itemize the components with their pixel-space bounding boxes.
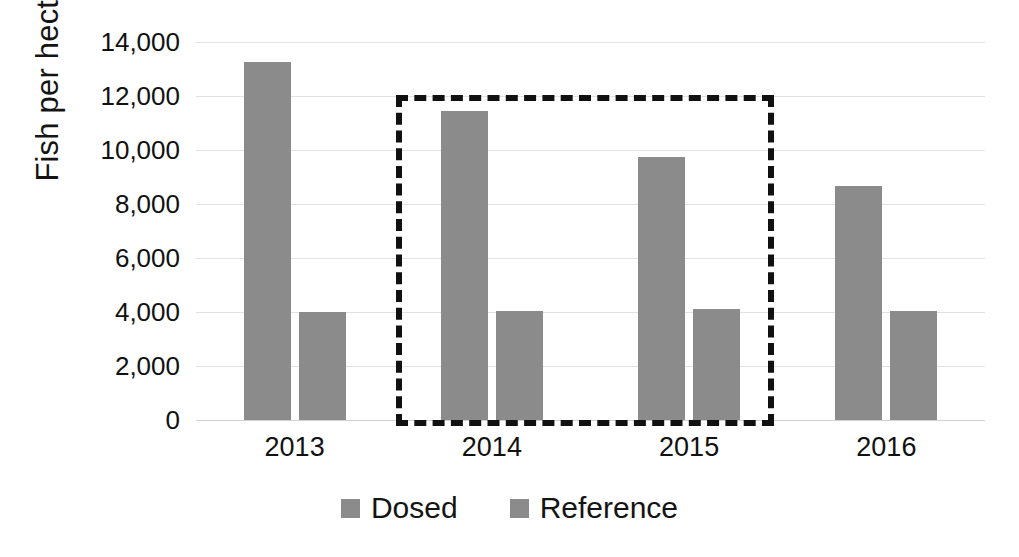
bar-reference-2014[interactable]	[496, 311, 543, 420]
y-axis-tick-label: 6,000	[60, 243, 180, 274]
y-axis-tick-label: 12,000	[60, 81, 180, 112]
chart-legend: DosedReference	[0, 493, 1019, 523]
bar-dosed-2013[interactable]	[244, 62, 291, 420]
gridline	[196, 42, 985, 43]
legend-item-reference[interactable]: Reference	[510, 493, 678, 523]
bar-reference-2016[interactable]	[890, 311, 937, 420]
plot-area	[196, 42, 985, 420]
bar-chart: Fish per hectare 02,0004,0006,0008,00010…	[0, 0, 1019, 557]
y-axis-tick-label: 4,000	[60, 297, 180, 328]
bar-reference-2013[interactable]	[299, 312, 346, 420]
y-axis-tick-label: 0	[60, 405, 180, 436]
legend-swatch-icon	[510, 499, 529, 518]
legend-label: Reference	[540, 493, 678, 523]
y-axis-tick-label: 8,000	[60, 189, 180, 220]
gridline	[196, 150, 985, 151]
gridline	[196, 96, 985, 97]
y-axis-tick-label: 10,000	[60, 135, 180, 166]
y-axis-tick-label: 14,000	[60, 27, 180, 58]
x-axis-tick-label: 2015	[659, 432, 719, 463]
legend-label: Dosed	[371, 493, 458, 523]
gridline	[196, 420, 985, 421]
y-axis-tick-label: 2,000	[60, 351, 180, 382]
legend-swatch-icon	[341, 499, 360, 518]
x-axis-tick-label: 2016	[856, 432, 916, 463]
bar-reference-2015[interactable]	[693, 309, 740, 420]
bar-dosed-2014[interactable]	[441, 111, 488, 420]
legend-item-dosed[interactable]: Dosed	[341, 493, 458, 523]
bar-dosed-2016[interactable]	[835, 186, 882, 420]
x-axis-tick-label: 2013	[265, 432, 325, 463]
bar-dosed-2015[interactable]	[638, 157, 685, 420]
x-axis-tick-label: 2014	[462, 432, 522, 463]
